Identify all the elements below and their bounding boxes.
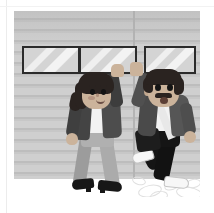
woman-eyebrow-right	[100, 85, 107, 87]
card-border-left	[6, 0, 7, 213]
woman-nose	[96, 93, 99, 97]
woman-front-heel	[100, 187, 105, 193]
man-eye-left	[155, 84, 161, 91]
woman-eyebrow-left	[89, 85, 96, 87]
card-border-top	[0, 6, 214, 7]
man-eyebrow-left	[153, 80, 161, 82]
woman-eye-left	[90, 89, 95, 95]
man-front-sneaker	[163, 176, 189, 190]
character-man	[134, 69, 200, 197]
woman-hair-top	[78, 72, 114, 94]
woman-back-shoe	[72, 178, 95, 190]
man-open-mouth	[160, 97, 168, 104]
window-glass-shine	[24, 48, 78, 72]
window-glass-shine	[81, 48, 135, 72]
woman-cheek-blush	[88, 96, 95, 100]
storefront-window-center	[79, 46, 137, 74]
character-woman	[62, 73, 144, 197]
woman-back-heel	[86, 185, 91, 192]
illustration-canvas	[0, 0, 214, 213]
woman-lowered-hand	[66, 133, 78, 145]
man-hair-top	[145, 69, 182, 85]
scene-illustration	[14, 11, 200, 197]
man-eye-right	[167, 84, 173, 91]
man-raised-hand	[130, 62, 143, 76]
man-eyebrow-right	[166, 80, 174, 82]
woman-raised-hand	[111, 64, 124, 77]
woman-eye-right	[101, 89, 106, 95]
storefront-window-left	[22, 46, 80, 74]
man-lowered-hand	[184, 131, 196, 143]
